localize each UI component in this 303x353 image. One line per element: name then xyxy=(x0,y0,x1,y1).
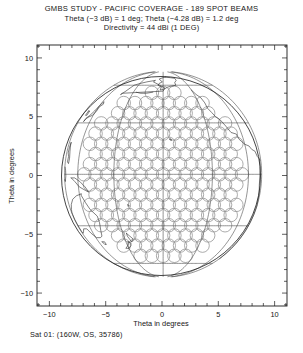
y-tick-label: −10 xyxy=(20,289,33,298)
x-tick-label: −10 xyxy=(43,310,56,319)
x-axis-label: Theta in degrees xyxy=(133,319,189,328)
plot-area: −10−50510−10−50510 Theta in degrees Thet… xyxy=(0,0,303,353)
x-tick-label: 5 xyxy=(216,310,220,319)
y-tick-label: 5 xyxy=(29,112,33,121)
plot-frame xyxy=(37,45,287,306)
coastline-segment xyxy=(158,77,176,90)
figure-root: GMBS STUDY - PACIFIC COVERAGE - 189 SPOT… xyxy=(0,0,303,353)
coastline-segment xyxy=(84,102,104,122)
y-tick-label: 0 xyxy=(29,171,33,180)
axis-tick-labels: −10−50510−10−50510 xyxy=(20,54,278,319)
x-tick-label: −5 xyxy=(101,310,109,319)
axis-ticks xyxy=(37,45,287,306)
y-axis-label: Theta in degrees xyxy=(7,148,16,204)
satellite-caption: Sat 01: (160W, OS, 35786) xyxy=(30,330,123,339)
x-tick-label: 0 xyxy=(160,310,164,319)
y-tick-label: 10 xyxy=(25,54,33,63)
earth-limb xyxy=(62,77,261,276)
y-tick-label: −5 xyxy=(25,230,33,239)
coastline-segment xyxy=(102,242,106,245)
coastline-segment xyxy=(126,233,133,241)
coastline-segment xyxy=(128,204,130,206)
x-tick-label: 10 xyxy=(270,310,278,319)
beam-coverage-plot: −10−50510−10−50510 Theta in degrees Thet… xyxy=(0,0,303,353)
coastline-segment xyxy=(170,139,172,141)
coastline-segment xyxy=(86,111,90,115)
coastline-segment xyxy=(67,143,71,164)
